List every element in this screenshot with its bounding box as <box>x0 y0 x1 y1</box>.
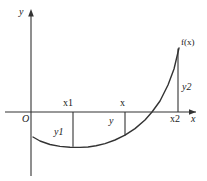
graph-canvas <box>0 0 207 181</box>
x-label: x <box>120 98 125 108</box>
y-label: y <box>109 116 113 126</box>
y-axis-arrowhead <box>28 9 34 17</box>
function-graph-figure: y x O f(x) x1 y1 x y x2 y2 <box>0 0 207 181</box>
y2-label: y2 <box>182 82 191 92</box>
y-axis-label: y <box>19 7 23 17</box>
origin-label: O <box>22 114 29 124</box>
function-label: f(x) <box>181 38 195 47</box>
x2-label: x2 <box>170 114 180 124</box>
x-axis-label: x <box>191 114 195 124</box>
y1-label: y1 <box>54 127 63 137</box>
x1-label: x1 <box>63 98 73 108</box>
